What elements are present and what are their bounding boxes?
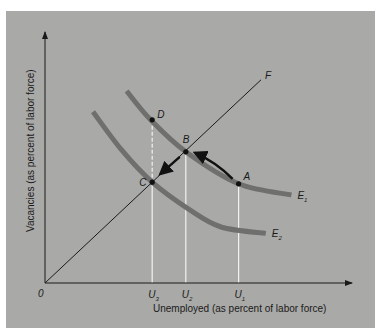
x-tick-label-u1: U1 [235, 289, 246, 302]
point-label-d: D [157, 109, 164, 120]
x-tick-label-u3: U3 [148, 289, 159, 302]
x-axis-title: Unemployed (as percent of labor force) [153, 303, 326, 314]
x-tick-label-u2: U2 [182, 289, 193, 302]
x-tick-subscript: 3 [155, 296, 159, 302]
origin-label: 0 [38, 288, 44, 299]
point-a [236, 181, 241, 186]
arrow-b-to-c [160, 157, 180, 174]
point-label-c: C [139, 177, 147, 188]
curve-label-e1: E1 [297, 190, 307, 203]
point-c [150, 180, 155, 185]
arrow-a-to-b [195, 153, 233, 179]
curve-e2 [93, 112, 266, 234]
curve-label-e2: E2 [272, 228, 283, 241]
point-label-a: A [243, 171, 251, 182]
y-axis-title: Vacancies (as percent of labor force) [25, 69, 36, 232]
x-tick-subscript: 2 [188, 296, 193, 302]
curve-label-subscript: 2 [277, 235, 282, 241]
x-tick-subscript: 1 [242, 296, 245, 302]
point-b [183, 149, 188, 154]
vacancy-unemployment-diagram: 0 Unemployed (as percent of labor force)… [0, 0, 380, 334]
curve-label-subscript: 1 [304, 197, 307, 203]
line-label-f: F [265, 70, 272, 81]
point-d [150, 117, 155, 122]
point-label-b: B [183, 134, 190, 145]
